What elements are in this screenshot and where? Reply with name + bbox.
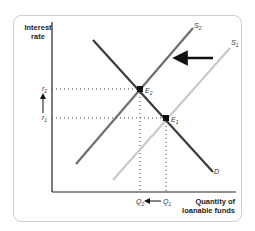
demand-label: D bbox=[214, 168, 219, 175]
s2-label: S2 bbox=[194, 22, 202, 31]
e1-label: E1 bbox=[171, 116, 179, 125]
q2-label: Q2 bbox=[136, 198, 144, 207]
e2-label: E2 bbox=[145, 87, 153, 96]
y-axis-label-2: rate bbox=[31, 32, 45, 41]
y-axis-label-1: Interest bbox=[24, 23, 52, 32]
supply-curve-s1 bbox=[113, 48, 230, 180]
x-axis-label-2: loanable funds bbox=[182, 206, 235, 215]
equilibrium-point-e1 bbox=[163, 115, 169, 121]
supply-curve-s2 bbox=[76, 28, 193, 164]
demand-curve bbox=[93, 40, 213, 172]
s1-label: S1 bbox=[231, 39, 239, 48]
equilibrium-point-e2 bbox=[137, 86, 143, 92]
x-axis-label-1: Quantity of bbox=[195, 197, 235, 206]
q1-label: Q1 bbox=[163, 198, 171, 207]
loanable-funds-diagram: Interest rate Quantity of loanable funds… bbox=[0, 0, 255, 231]
r2-label: r2 bbox=[42, 85, 47, 94]
r1-label: r1 bbox=[42, 114, 47, 123]
